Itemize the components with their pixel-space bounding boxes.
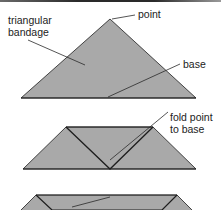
- step-3-folded-band: [17, 195, 196, 210]
- leader-point: [112, 15, 135, 19]
- label-fold-point-to-base: fold point to base: [170, 111, 213, 135]
- label-base: base: [183, 58, 206, 70]
- label-triangular-bandage: triangular bandage: [8, 14, 52, 38]
- label-point: point: [138, 8, 161, 20]
